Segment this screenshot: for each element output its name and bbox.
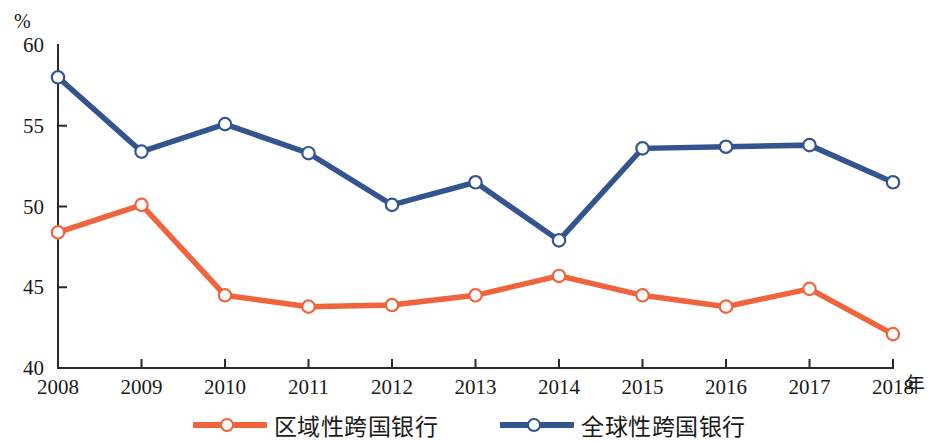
data-point-marker[interactable] bbox=[720, 141, 732, 153]
data-point-marker[interactable] bbox=[553, 270, 565, 282]
x-tick-label: 2017 bbox=[789, 375, 831, 399]
data-point-marker[interactable] bbox=[386, 299, 398, 311]
series-line bbox=[58, 77, 893, 240]
data-point-marker[interactable] bbox=[803, 139, 815, 151]
x-tick-label: 2013 bbox=[455, 375, 497, 399]
data-point-marker[interactable] bbox=[52, 226, 64, 238]
y-tick-label: 55 bbox=[23, 114, 44, 138]
data-point-marker[interactable] bbox=[302, 147, 314, 159]
series-global bbox=[52, 71, 899, 247]
data-point-marker[interactable] bbox=[135, 145, 147, 157]
x-tick-label: 2008 bbox=[37, 375, 79, 399]
data-point-marker[interactable] bbox=[52, 71, 64, 83]
data-point-marker[interactable] bbox=[887, 176, 899, 188]
data-point-marker[interactable] bbox=[720, 300, 732, 312]
x-axis: 2008200920102011201220132014201520162017… bbox=[37, 359, 914, 399]
data-series-group bbox=[52, 71, 899, 340]
line-chart: 4045505560 20082009201020112012201320142… bbox=[0, 0, 938, 441]
y-tick-label: 50 bbox=[23, 195, 44, 219]
y-tick-label: 45 bbox=[23, 275, 44, 299]
data-point-marker[interactable] bbox=[302, 300, 314, 312]
data-point-marker[interactable] bbox=[553, 234, 565, 246]
data-point-marker[interactable] bbox=[636, 289, 648, 301]
x-axis-unit-label: 年 bbox=[905, 374, 925, 396]
x-tick-label: 2010 bbox=[204, 375, 246, 399]
legend-item-regional[interactable]: 区域性跨国银行 bbox=[193, 408, 439, 441]
series-line bbox=[58, 205, 893, 334]
data-point-marker[interactable] bbox=[469, 289, 481, 301]
x-tick-label: 2015 bbox=[622, 375, 664, 399]
x-tick-label: 2009 bbox=[121, 375, 163, 399]
y-axis: 4045505560 bbox=[23, 33, 67, 380]
data-point-marker[interactable] bbox=[219, 118, 231, 130]
data-point-marker[interactable] bbox=[469, 176, 481, 188]
x-tick-label: 2016 bbox=[705, 375, 747, 399]
legend-swatch-global bbox=[500, 416, 574, 434]
chart-legend: 区域性跨国银行 全球性跨国银行 bbox=[0, 408, 938, 441]
series-regional bbox=[52, 199, 899, 341]
data-point-marker[interactable] bbox=[135, 199, 147, 211]
legend-item-global[interactable]: 全球性跨国银行 bbox=[500, 408, 746, 441]
legend-label-regional: 区域性跨国银行 bbox=[274, 408, 439, 441]
legend-swatch-regional bbox=[193, 416, 267, 434]
y-axis-unit-label: % bbox=[14, 10, 31, 32]
data-point-marker[interactable] bbox=[887, 328, 899, 340]
y-tick-label: 60 bbox=[23, 33, 44, 57]
data-point-marker[interactable] bbox=[386, 199, 398, 211]
chart-canvas: 4045505560 20082009201020112012201320142… bbox=[0, 0, 938, 441]
data-point-marker[interactable] bbox=[636, 142, 648, 154]
x-tick-label: 2012 bbox=[371, 375, 413, 399]
data-point-marker[interactable] bbox=[803, 283, 815, 295]
x-tick-label: 2011 bbox=[288, 375, 329, 399]
x-tick-label: 2014 bbox=[538, 375, 581, 399]
legend-label-global: 全球性跨国银行 bbox=[581, 408, 746, 441]
data-point-marker[interactable] bbox=[219, 289, 231, 301]
